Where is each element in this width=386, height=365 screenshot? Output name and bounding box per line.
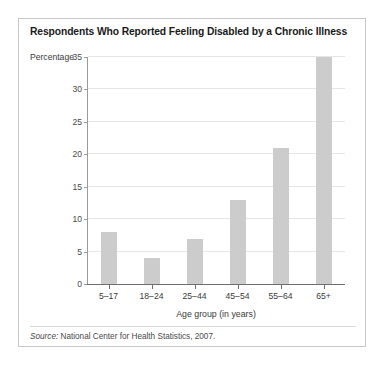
bar <box>230 200 246 284</box>
bar <box>144 258 160 284</box>
x-axis-line <box>87 284 345 285</box>
gridline <box>88 56 345 57</box>
y-tick-label: 5 <box>77 247 82 257</box>
y-tick-mark <box>84 187 87 188</box>
y-tick-mark <box>84 252 87 253</box>
gridline <box>88 218 345 219</box>
chart-figure: Respondents Who Reported Feeling Disable… <box>18 18 366 347</box>
y-tick-mark <box>84 154 87 155</box>
x-axis-title: Age group (in years) <box>87 309 345 319</box>
chart-title: Respondents Who Reported Feeling Disable… <box>30 26 356 37</box>
x-tick-mark <box>152 285 153 289</box>
y-tick-label: 25 <box>72 117 82 127</box>
y-tick-mark <box>84 89 87 90</box>
y-tick-label: 20 <box>72 149 82 159</box>
x-tick-label: 25–44 <box>183 291 207 301</box>
y-axis-title: Percentage <box>30 52 74 62</box>
bar <box>187 239 203 284</box>
x-tick-mark <box>195 285 196 289</box>
x-tick-label: 5–17 <box>99 291 118 301</box>
plot-area: 05101520253035 5–1718–2425–4445–5455–646… <box>87 57 345 285</box>
x-tick-label: 45–54 <box>226 291 250 301</box>
gridline <box>88 251 345 252</box>
gridline <box>88 121 345 122</box>
source-divider <box>30 326 356 327</box>
y-tick-label: 15 <box>72 182 82 192</box>
bar <box>101 232 117 284</box>
x-tick-mark <box>281 285 282 289</box>
gridline <box>88 186 345 187</box>
source-label: Source: <box>30 332 58 341</box>
x-tick-label: 65+ <box>316 291 331 301</box>
y-tick-mark <box>84 57 87 58</box>
bar <box>316 57 332 284</box>
gridline <box>88 153 345 154</box>
y-tick-label: 10 <box>72 214 82 224</box>
y-tick-label: 35 <box>72 52 82 62</box>
x-tick-mark <box>109 285 110 289</box>
source-note: Source: National Center for Health Stati… <box>30 332 215 341</box>
x-tick-mark <box>324 285 325 289</box>
bar <box>273 148 289 284</box>
x-tick-mark <box>238 285 239 289</box>
y-tick-mark <box>84 219 87 220</box>
y-tick-label: 0 <box>77 279 82 289</box>
x-tick-label: 18–24 <box>140 291 164 301</box>
source-text: National Center for Health Statistics, 2… <box>61 332 216 341</box>
x-tick-label: 55–64 <box>269 291 293 301</box>
y-tick-mark <box>84 284 87 285</box>
gridline <box>88 88 345 89</box>
y-tick-label: 30 <box>72 84 82 94</box>
y-tick-mark <box>84 122 87 123</box>
